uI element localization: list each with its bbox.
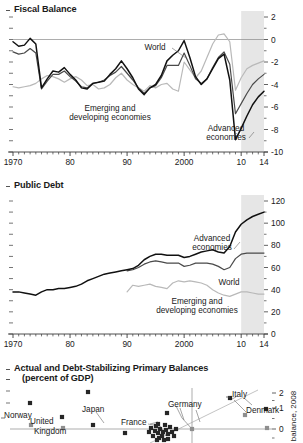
svg-text:90: 90 (122, 339, 132, 349)
panel-fiscal-balance: Fiscal Balance 20-2-4-6-8-10197080902000… (0, 0, 303, 172)
svg-text:Advanced: Advanced (208, 124, 245, 133)
svg-text:Japan: Japan (82, 405, 105, 414)
svg-text:40: 40 (271, 285, 281, 295)
svg-text:2: 2 (279, 388, 284, 398)
panel3-plot: 210balance, 2008NorwayUnitedKingdomJapan… (0, 360, 303, 443)
svg-text:Norway: Norway (4, 411, 33, 420)
svg-text:14: 14 (259, 339, 269, 349)
svg-text:120: 120 (271, 196, 285, 206)
svg-text:2: 2 (271, 12, 276, 22)
panel2-plot: 0204060801001201970809020001014Advancede… (0, 176, 303, 356)
svg-text:-8: -8 (271, 125, 279, 135)
svg-text:80: 80 (271, 240, 281, 250)
svg-text:United: United (30, 417, 54, 426)
svg-text:2000: 2000 (175, 339, 194, 349)
svg-text:-4: -4 (271, 80, 279, 90)
svg-text:Germany: Germany (168, 400, 203, 409)
svg-text:balance, 2008: balance, 2008 (289, 390, 298, 441)
svg-text:60: 60 (271, 263, 281, 273)
svg-text:economies: economies (192, 243, 232, 252)
svg-text:Italy: Italy (232, 390, 248, 399)
svg-text:Advanced: Advanced (194, 234, 231, 243)
svg-text:developing economies: developing economies (156, 306, 237, 315)
svg-text:20: 20 (271, 307, 281, 317)
svg-text:14: 14 (259, 157, 269, 167)
svg-text:Kingdom: Kingdom (34, 427, 66, 436)
svg-text:developing economies: developing economies (69, 113, 150, 122)
svg-text:-6: -6 (271, 102, 279, 112)
svg-text:80: 80 (65, 339, 75, 349)
svg-text:Emerging and: Emerging and (172, 297, 223, 306)
svg-text:2000: 2000 (175, 157, 194, 167)
svg-text:economies: economies (206, 133, 246, 142)
svg-text:0: 0 (271, 35, 276, 45)
svg-text:100: 100 (271, 218, 285, 228)
svg-text:0: 0 (279, 424, 284, 434)
svg-text:Emerging and: Emerging and (85, 104, 136, 113)
figure-page: Fiscal Balance 20-2-4-6-8-10197080902000… (0, 0, 303, 443)
svg-text:Denmark: Denmark (246, 406, 280, 415)
svg-text:10: 10 (237, 339, 247, 349)
svg-text:France: France (121, 418, 147, 427)
panel-primary-balances: Actual and Debt-Stabilizing Primary Bala… (0, 360, 303, 443)
svg-text:1970: 1970 (4, 157, 23, 167)
panel-public-debt: Public Debt 0204060801001201970809020001… (0, 176, 303, 356)
svg-text:90: 90 (122, 157, 132, 167)
svg-text:1970: 1970 (4, 339, 23, 349)
svg-text:World: World (144, 43, 166, 52)
svg-text:World: World (218, 278, 240, 287)
panel1-plot: 20-2-4-6-8-101970809020001014WorldEmergi… (0, 0, 303, 172)
svg-text:80: 80 (65, 157, 75, 167)
svg-text:-2: -2 (271, 57, 279, 67)
svg-text:0: 0 (271, 329, 276, 339)
svg-text:1: 1 (279, 403, 284, 413)
svg-text:-10: -10 (271, 147, 283, 157)
svg-text:10: 10 (237, 157, 247, 167)
